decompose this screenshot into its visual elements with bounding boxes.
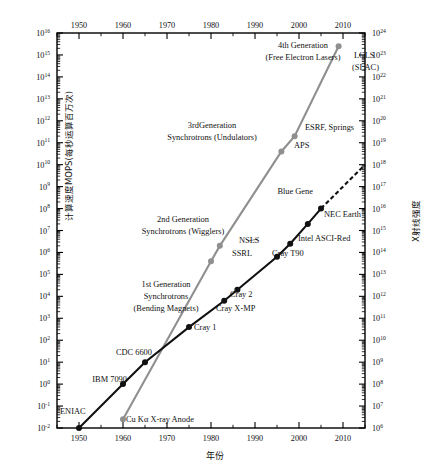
computing-series-extrapolation — [321, 165, 365, 209]
y-tick-label-left: 106 — [39, 247, 50, 257]
plot-svg: 1950196019701980199020002010 19501960197… — [0, 0, 428, 473]
y-tick-label-right: 1013 — [372, 269, 386, 279]
x-axis-top-ticks — [57, 33, 365, 39]
y-tick-label-left: 103 — [39, 313, 50, 323]
x-tick-label: 1990 — [247, 434, 263, 443]
label-ssrl: SSRL — [232, 249, 252, 258]
label-blue-gene: Blue Gene — [277, 187, 313, 196]
x-tick-label: 1950 — [71, 434, 87, 443]
y-tick-label-right: 1021 — [372, 94, 386, 104]
y-tick-label-left: 10-2 — [37, 423, 50, 433]
y-tick-label-right: 1014 — [372, 247, 386, 257]
annotation-1st-generation-line1: 1st Generation — [141, 280, 191, 289]
label-cray-t90: Cray T90 — [272, 249, 304, 258]
y-tick-label-right: 1017 — [372, 181, 386, 191]
y-tick-label-left: 104 — [39, 291, 50, 301]
chart-container: 计算速度MOPS(每秒运算百万次) X射线强度 年份 1950196019701… — [0, 0, 428, 473]
x-axis-bottom-tick-labels: 1950196019701980199020002010 — [71, 434, 351, 443]
y-tick-label-right: 1022 — [372, 72, 386, 82]
y-tick-label-right: 106 — [372, 423, 383, 433]
y-tick-label-left: 10-1 — [37, 401, 50, 411]
y-tick-label-left: 1016 — [36, 28, 50, 38]
x-tick-label: 1980 — [203, 434, 219, 443]
x-axis-top-tick-labels: 1950196019701980199020002010 — [71, 21, 351, 30]
label-eniac: ENIAC — [60, 407, 86, 416]
data-point-xray — [292, 133, 298, 139]
y-axis-left-ticks — [57, 33, 63, 428]
x-tick-label: 2010 — [335, 434, 351, 443]
data-point-computing — [76, 425, 82, 431]
x-axis-bottom-ticks — [57, 422, 365, 428]
annotation-1st-generation-line3: (Bending Magnets) — [134, 304, 199, 313]
y-tick-label-left: 100 — [39, 379, 50, 389]
y-tick-label-left: 107 — [39, 225, 50, 235]
label-cray-1: Cray 1 — [194, 323, 217, 332]
y-axis-right-ticks — [359, 33, 365, 428]
label-lcls-line2: (SLAC) — [352, 63, 379, 72]
label-cdc-6600: CDC 6600 — [116, 348, 152, 357]
y-tick-label-right: 108 — [372, 379, 383, 389]
y-tick-label-right: 1019 — [372, 137, 386, 147]
x-tick-label-top: 1980 — [203, 21, 219, 30]
label-esrf-springs: ESRF, Springs — [305, 123, 354, 132]
y-tick-label-right: 107 — [372, 401, 383, 411]
y-tick-label-left: 1011 — [36, 137, 50, 147]
label-cray-2: Cray 2 — [230, 290, 253, 299]
computing-series-line — [79, 209, 321, 428]
data-point-xray — [217, 243, 223, 249]
y-tick-label-left: 1013 — [36, 94, 50, 104]
label-lcls-line1: LCLS — [354, 51, 375, 60]
label-cray-x-mp: Cray X-MP — [216, 304, 256, 313]
data-point-xray — [278, 149, 284, 155]
annotation-2nd-generation-line1: 2nd Generation — [157, 215, 210, 224]
y-tick-label-right: 1011 — [372, 313, 386, 323]
annotation-2nd-generation-line2: Synchrotrons (Wigglers) — [142, 227, 225, 236]
x-tick-label-top: 1990 — [247, 21, 263, 30]
x-tick-label: 1970 — [159, 434, 175, 443]
y-tick-label-right: 1018 — [372, 159, 386, 169]
x-tick-label-top: 1950 — [71, 21, 87, 30]
label-aps: APS — [294, 141, 310, 150]
annotation-1st-generation-line2: Synchrotrons — [144, 292, 189, 301]
data-point-computing — [305, 221, 311, 227]
x-tick-label: 1960 — [115, 434, 131, 443]
data-point-computing — [287, 241, 293, 247]
y-tick-label-left: 1012 — [36, 115, 50, 125]
annotation-4th-generation-line2: (Free Electron Lasers) — [266, 53, 341, 62]
y-tick-label-right: 1024 — [372, 28, 386, 38]
y-tick-label-left: 1015 — [36, 50, 50, 60]
label-ibm-7090: IBM 7090 — [92, 375, 127, 384]
label-intel-asci-red: Intel ASCI-Red — [298, 234, 351, 243]
y-tick-label-left: 101 — [39, 357, 50, 367]
annotation-3rd-generation-line1: 3rdGeneration — [188, 121, 237, 130]
y-tick-label-right: 1020 — [372, 115, 386, 125]
y-tick-label-right: 109 — [372, 357, 383, 367]
y-tick-label-right: 1012 — [372, 291, 386, 301]
y-tick-label-left: 108 — [39, 203, 50, 213]
y-tick-label-left: 1010 — [36, 159, 50, 169]
x-tick-label-top: 2010 — [335, 21, 351, 30]
data-point-computing — [186, 324, 192, 330]
data-point-xray — [336, 43, 342, 49]
y-axis-right-tick-labels: 1061071081091010101110121013101410151016… — [372, 28, 386, 433]
y-tick-label-left: 109 — [39, 181, 50, 191]
data-point-computing — [221, 298, 227, 304]
data-point-computing — [142, 359, 148, 365]
label-cu-ka-xray-anode: Cu Kα X-ray Anode — [126, 415, 194, 424]
y-tick-label-right: 1016 — [372, 203, 386, 213]
data-point-xray — [208, 258, 214, 264]
y-tick-label-left: 102 — [39, 335, 50, 345]
x-tick-label: 2000 — [291, 434, 307, 443]
label-nec-earth: NEC Earth — [324, 210, 362, 219]
x-tick-label-top: 1970 — [159, 21, 175, 30]
y-tick-label-right: 1010 — [372, 335, 386, 345]
y-axis-left-tick-labels: 10-210-110010110210310410510610710810910… — [36, 28, 50, 433]
label-nsls: NSLS — [239, 236, 260, 245]
annotation-3rd-generation-line2: Synchrotrons (Undulators) — [167, 133, 257, 142]
y-tick-label-right: 1015 — [372, 225, 386, 235]
annotation-4th-generation-line1: 4th Generation — [278, 41, 329, 50]
x-tick-label-top: 1960 — [115, 21, 131, 30]
y-tick-label-left: 1014 — [36, 72, 50, 82]
y-tick-label-left: 105 — [39, 269, 50, 279]
x-tick-label-top: 2000 — [291, 21, 307, 30]
